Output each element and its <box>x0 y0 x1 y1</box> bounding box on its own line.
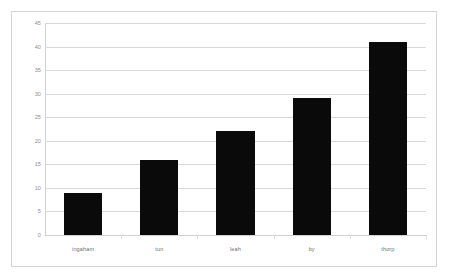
y-axis-tick-label: 10 <box>35 185 45 191</box>
y-axis-tick-label: 15 <box>35 161 45 167</box>
x-axis-category-label: thorp <box>381 246 394 252</box>
x-axis-category-label: by <box>309 246 315 252</box>
bar-slot <box>140 23 178 235</box>
bar-slot <box>64 23 102 235</box>
y-axis-tick-label: 20 <box>35 138 45 144</box>
x-axis-tick-mark <box>274 235 275 239</box>
plot-wrapper: 051015202530354045 ingahamtunleahbythorp <box>12 12 436 266</box>
bar-slot <box>293 23 331 235</box>
y-axis-tick-label: 35 <box>35 67 45 73</box>
y-axis-tick-label: 40 <box>35 44 45 50</box>
y-axis-tick-label: 25 <box>35 114 45 120</box>
gridline <box>45 235 426 236</box>
y-axis-tick-label: 0 <box>38 232 45 238</box>
x-axis-category-label: leah <box>230 246 241 252</box>
x-axis-tick-mark <box>197 235 198 239</box>
bar[interactable] <box>64 193 102 235</box>
x-axis-category-label: tun <box>155 246 163 252</box>
bar[interactable] <box>140 160 178 235</box>
x-axis-category-label: ingaham <box>72 246 94 252</box>
chart-frame: 051015202530354045 ingahamtunleahbythorp <box>11 11 437 267</box>
x-axis-tick-mark <box>121 235 122 239</box>
bar[interactable] <box>369 42 407 235</box>
y-axis-tick-label: 5 <box>38 208 45 214</box>
x-axis-tick-mark <box>426 235 427 239</box>
y-axis-tick-label: 30 <box>35 91 45 97</box>
y-axis-tick-label: 45 <box>35 20 45 26</box>
bar-slot <box>369 23 407 235</box>
bars-group <box>45 23 426 235</box>
bar-slot <box>216 23 254 235</box>
bar[interactable] <box>293 98 331 235</box>
plot-area: 051015202530354045 ingahamtunleahbythorp <box>45 23 426 235</box>
x-axis-tick-mark <box>350 235 351 239</box>
bar[interactable] <box>216 131 254 235</box>
